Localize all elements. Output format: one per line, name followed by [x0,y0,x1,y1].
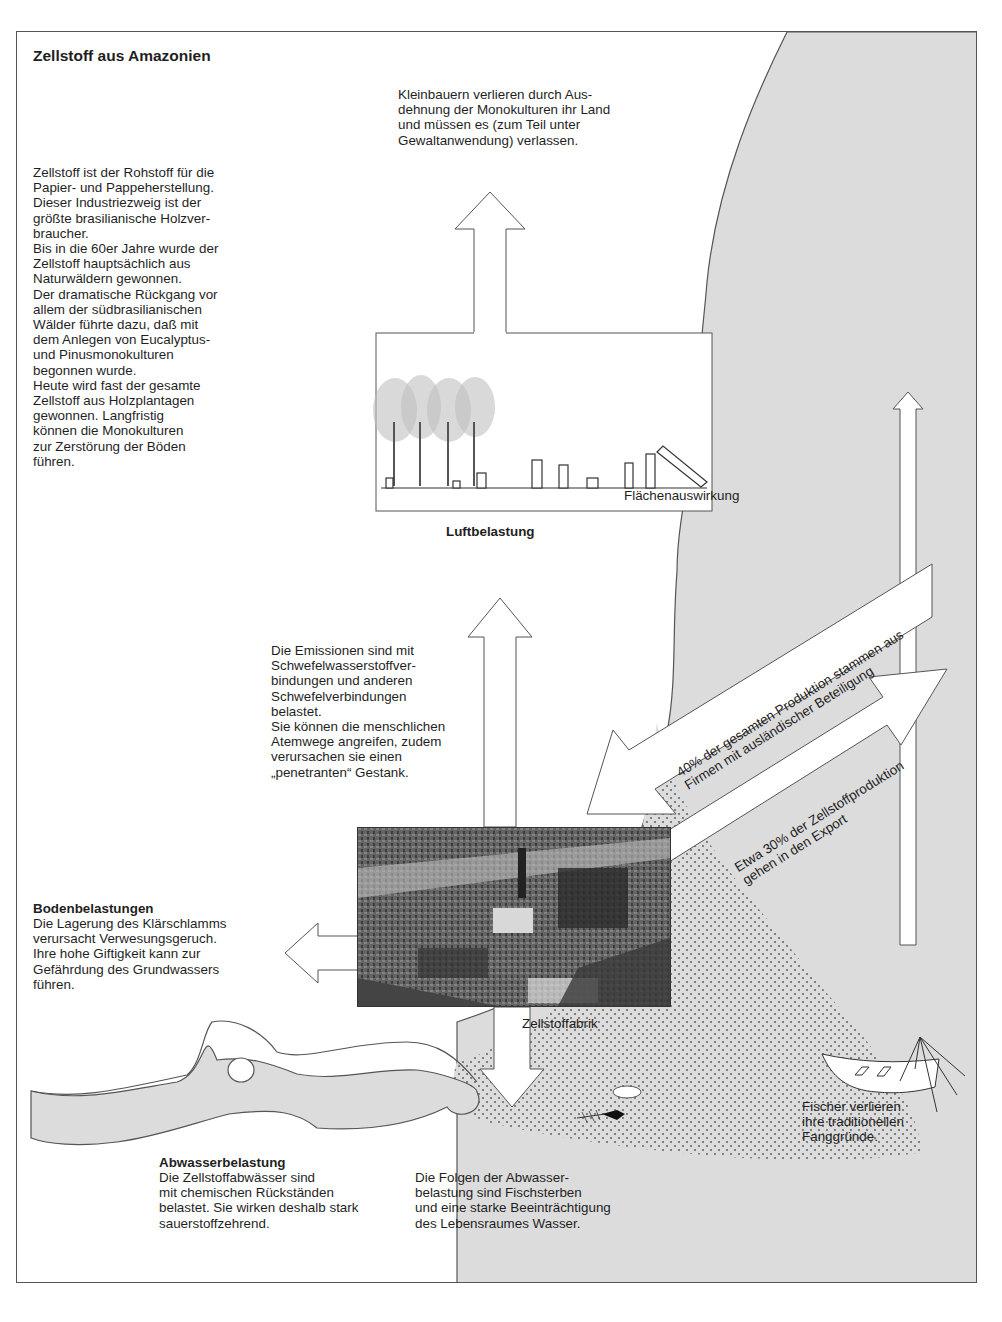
river-island [228,1058,254,1082]
luft-up-arrow [468,598,532,827]
abwasser-folgen-text: Die Folgen der Abwasser- belastung sind … [415,1170,611,1231]
page-title: Zellstoff aus Amazonien [33,48,211,63]
kleinbauern-up-arrow [455,192,525,333]
intro-text: Zellstoff ist der Rohstoff für die Papie… [33,165,218,469]
diagram-frame: Zellstoff aus Amazonien Zellstoff ist de… [16,31,977,1283]
fischer-text: Fischer verlieren ihre traditionellen Fa… [802,1099,904,1145]
factory-photo [357,827,671,1007]
abwasserbelastung-heading: Abwasserbelastung [159,1155,286,1170]
river [31,1046,479,1145]
factory-label: Zellstoffabrik [522,1016,598,1031]
abwasserbelastung-text: Die Zellstoffabwässer sind mit chemische… [159,1170,358,1231]
small-island [613,1086,641,1098]
flaechenauswirkung-label: Flächenauswirkung [624,488,739,503]
bodenbelastungen-heading: Bodenbelastungen [33,901,154,916]
boden-left-arrow [285,923,359,983]
bodenbelastungen-text: Die Lagerung des Klärschlamms verursacht… [33,916,227,992]
luftbelastung-text: Die Emissionen sind mit Schwefelwasserst… [271,643,445,780]
kleinbauern-text: Kleinbauern verlieren durch Aus- dehnung… [398,87,610,148]
luftbelastung-heading: Luftbelastung [446,524,535,539]
